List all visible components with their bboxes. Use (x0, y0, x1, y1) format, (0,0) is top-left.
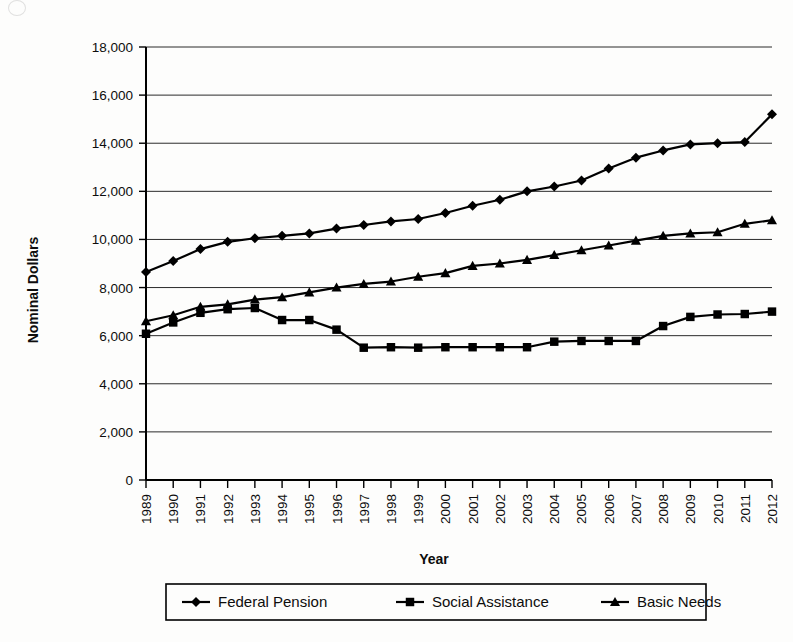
x-tick-label: 2011 (738, 494, 753, 523)
data-series-group (141, 109, 777, 352)
x-tick-label: 1996 (330, 494, 345, 524)
series-line (146, 114, 772, 272)
data-point-marker (768, 307, 776, 315)
legend-item-basic-needs[interactable]: Basic Needs (601, 593, 721, 610)
data-point-marker (468, 201, 478, 211)
data-point-marker (304, 228, 314, 238)
data-point-marker (250, 233, 260, 243)
series-line (146, 220, 772, 321)
x-tick-label: 2010 (711, 494, 726, 524)
data-point-marker (359, 220, 369, 230)
y-tick-label: 8,000 (99, 281, 133, 296)
data-point-marker (713, 310, 721, 318)
x-tick-label: 1993 (248, 494, 263, 524)
y-tick-label: 10,000 (92, 232, 133, 247)
series-social-assistance (142, 304, 776, 352)
y-tick-label: 16,000 (92, 88, 133, 103)
data-point-marker (576, 176, 586, 186)
x-tick-labels-group: 1989199019911992199319941995199619971998… (139, 494, 780, 525)
data-point-marker (251, 304, 259, 312)
data-point-marker (658, 145, 668, 155)
data-point-marker (278, 316, 286, 324)
series-line (146, 308, 772, 348)
data-point-marker (440, 208, 450, 218)
data-point-marker (413, 214, 423, 224)
x-tick-label: 1997 (357, 494, 372, 524)
data-point-marker (604, 163, 614, 173)
data-point-marker (523, 343, 531, 351)
x-tick-label: 2008 (656, 494, 671, 524)
x-tick-label: 2007 (629, 494, 644, 524)
x-tick-label: 2000 (438, 494, 453, 524)
data-point-marker (659, 322, 667, 330)
data-point-marker (141, 267, 151, 277)
x-tick-label: 2009 (683, 494, 698, 524)
x-tick-label: 1991 (193, 494, 208, 524)
data-point-marker (741, 310, 749, 318)
data-point-marker (604, 337, 612, 345)
data-point-marker (713, 138, 723, 148)
line-chart: 02,0004,0006,0008,00010,00012,00014,0001… (0, 0, 793, 642)
x-tick-marks-group (146, 480, 772, 488)
data-point-marker (441, 343, 449, 351)
x-tick-label: 1992 (221, 494, 236, 524)
legend-marker-square-icon (406, 598, 414, 606)
data-point-marker (142, 330, 150, 338)
scan-artifact (8, 0, 26, 16)
y-tick-label: 4,000 (99, 377, 133, 392)
data-point-marker (332, 224, 342, 234)
chart-figure: 02,0004,0006,0008,00010,00012,00014,0001… (0, 0, 793, 642)
data-point-marker (195, 244, 205, 254)
data-point-marker (631, 153, 641, 163)
x-axis-title: Year (419, 551, 449, 567)
series-federal-pension (141, 109, 777, 277)
data-point-marker (386, 216, 396, 226)
x-tick-label: 2006 (602, 494, 617, 524)
y-tick-label: 6,000 (99, 329, 133, 344)
x-tick-label: 1989 (139, 494, 154, 524)
legend-label: Federal Pension (218, 593, 327, 610)
data-point-marker (549, 182, 559, 192)
data-point-marker (332, 325, 340, 333)
x-tick-label: 2012 (765, 494, 780, 524)
legend-label: Social Assistance (432, 593, 549, 610)
legend-item-federal-pension[interactable]: Federal Pension (182, 593, 327, 610)
x-tick-label: 2005 (574, 494, 589, 524)
y-axis-title: Nominal Dollars (25, 237, 41, 344)
y-tick-label: 2,000 (99, 425, 133, 440)
data-point-marker (387, 343, 395, 351)
data-point-marker (632, 337, 640, 345)
x-tick-label: 1999 (411, 494, 426, 524)
y-tick-label: 18,000 (92, 40, 133, 55)
x-tick-label: 1998 (384, 494, 399, 524)
y-tick-label: 12,000 (92, 184, 133, 199)
data-point-marker (223, 237, 233, 247)
data-point-marker (496, 343, 504, 351)
data-point-marker (468, 343, 476, 351)
x-tick-label: 1995 (302, 494, 317, 524)
y-tick-labels-group: 02,0004,0006,0008,00010,00012,00014,0001… (92, 40, 133, 488)
y-tick-label: 0 (125, 473, 133, 488)
x-tick-label: 2001 (466, 494, 481, 524)
y-tick-marks-group (139, 47, 146, 480)
data-point-marker (495, 195, 505, 205)
x-tick-label: 2004 (547, 494, 562, 525)
data-point-marker (577, 337, 585, 345)
data-point-marker (685, 139, 695, 149)
legend-item-social-assistance[interactable]: Social Assistance (396, 593, 549, 610)
data-point-marker (414, 343, 422, 351)
data-point-marker (168, 256, 178, 266)
y-tick-label: 14,000 (92, 136, 133, 151)
legend-marker-diamond-icon (191, 597, 201, 607)
legend-label: Basic Needs (637, 593, 721, 610)
x-tick-label: 1994 (275, 494, 290, 525)
x-tick-label: 1990 (166, 494, 181, 524)
data-point-marker (305, 316, 313, 324)
legend-items-group: Federal PensionSocial AssistanceBasic Ne… (182, 593, 721, 610)
data-point-marker (686, 313, 694, 321)
data-point-marker (169, 318, 177, 326)
x-tick-label: 2002 (493, 494, 508, 524)
data-point-marker (360, 343, 368, 351)
data-point-marker (522, 186, 532, 196)
data-point-marker (550, 337, 558, 345)
